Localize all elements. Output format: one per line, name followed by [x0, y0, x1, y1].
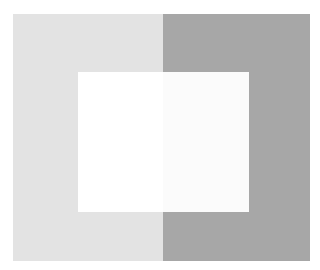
center-rectangle-right-half [163, 72, 249, 212]
center-white-rectangle [78, 72, 249, 212]
center-rectangle-left-half [78, 72, 163, 212]
